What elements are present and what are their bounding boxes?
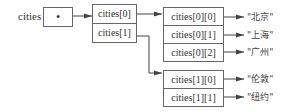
inner-cell-1-1: cities[1][1]	[163, 88, 224, 107]
outer-cell-1: cities[1]	[92, 23, 137, 43]
inner-cell-1-0: cities[1][0]	[163, 70, 224, 89]
pointer-dot-icon: •	[56, 10, 60, 24]
string-value-1-1: "纽约"	[247, 91, 273, 103]
string-value-0-2: "广州"	[247, 46, 273, 58]
pointer-box: •	[43, 7, 73, 27]
string-value-1-0: "伦敦"	[247, 73, 273, 85]
variable-name: cities	[18, 9, 41, 23]
inner-cell-0-2: cities[0][2]	[163, 43, 224, 62]
inner-cell-0-0: cities[0][0]	[163, 7, 224, 26]
inner-cell-0-1: cities[0][1]	[163, 25, 224, 44]
string-value-0-1: "上海"	[247, 29, 273, 41]
outer-cell-0: cities[0]	[92, 4, 137, 24]
string-value-0-0: "北京"	[247, 11, 273, 23]
